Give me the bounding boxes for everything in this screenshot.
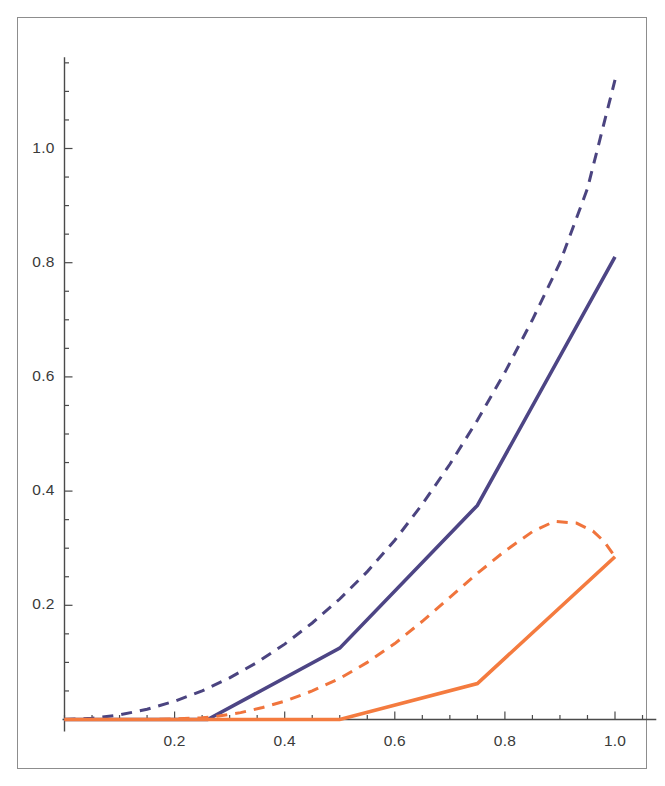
figure-container: 0.20.40.60.81.0 0.20.40.60.81.0 — [0, 0, 665, 786]
x-tick-label-0.8: 0.8 — [475, 732, 535, 750]
y-tick-label-0.6: 0.6 — [7, 367, 55, 385]
data-series-purple-dashed-upper — [65, 80, 616, 720]
plot-canvas — [0, 0, 665, 786]
series-group — [65, 80, 616, 720]
y-tick-label-0.8: 0.8 — [7, 253, 55, 271]
data-series-orange-solid — [65, 557, 616, 720]
data-series-purple-solid — [65, 257, 616, 720]
x-tick-label-0.6: 0.6 — [365, 732, 425, 750]
y-tick-label-0.4: 0.4 — [7, 481, 55, 499]
data-series-orange-dashed — [65, 521, 616, 719]
y-tick-label-1.0: 1.0 — [7, 139, 55, 157]
x-tick-label-1.0: 1.0 — [585, 732, 645, 750]
x-tick-label-0.2: 0.2 — [145, 732, 205, 750]
x-tick-label-0.4: 0.4 — [255, 732, 315, 750]
y-tick-label-0.2: 0.2 — [7, 595, 55, 613]
